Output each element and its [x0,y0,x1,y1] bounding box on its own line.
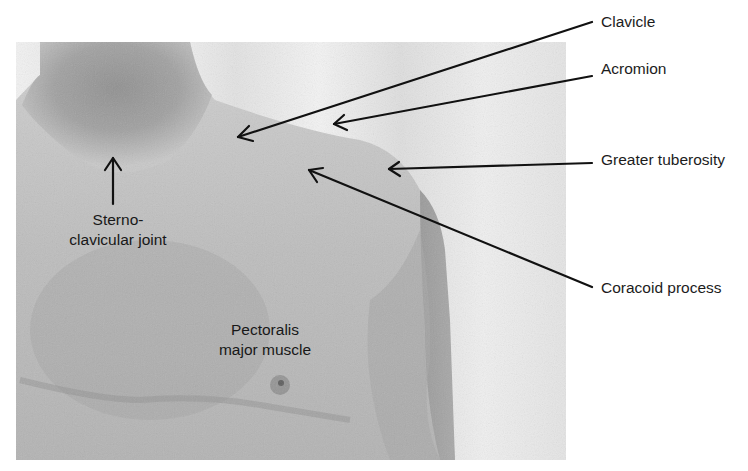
figure: Clavicle Acromion Greater tuberosity Cor… [0,0,748,471]
label-coracoid-process: Coracoid process [601,278,722,298]
label-greater-tuberosity: Greater tuberosity [601,150,725,170]
label-sternoclavicular-line2: clavicular joint [58,230,178,250]
photo-region [16,42,566,460]
label-sternoclavicular-line1: Sterno- [58,210,178,230]
label-pectoralis-line2: major muscle [205,340,325,360]
label-sternoclavicular-joint: Sterno- clavicular joint [58,210,178,250]
label-pectoralis-line1: Pectoralis [205,320,325,340]
label-pectoralis-major: Pectoralis major muscle [205,320,325,360]
label-acromion: Acromion [601,59,666,79]
label-clavicle: Clavicle [601,12,655,32]
